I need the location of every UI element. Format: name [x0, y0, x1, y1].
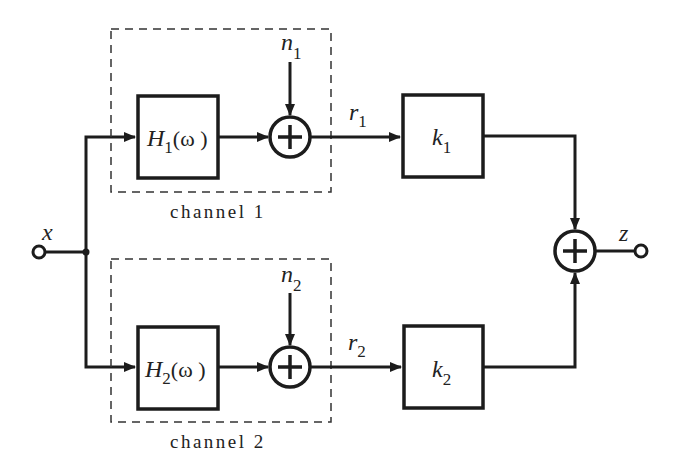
sum-junction-1 [270, 117, 310, 157]
output-sum-junction [555, 231, 595, 271]
signal-r2-label: r2 [348, 329, 366, 361]
sum-junction-2 [270, 347, 310, 387]
k1-to-output-sum-line [483, 136, 575, 229]
noise-n2-label: n2 [281, 261, 302, 295]
block-diagram: x channel 1 H1(ω ) n1 r1 k1 channel 2 H2… [0, 0, 675, 469]
output-label: z [618, 220, 629, 246]
gain-k2-block [404, 326, 483, 408]
k2-to-output-sum-line [483, 273, 575, 367]
signal-r1-label: r1 [349, 99, 367, 131]
gain-k1-block [403, 95, 483, 177]
channel-2-label: channel 2 [170, 431, 266, 452]
input-label: x [41, 219, 53, 245]
noise-n1-label: n1 [281, 29, 302, 63]
channel-1-label: channel 1 [170, 201, 266, 222]
branch-line-1 [86, 137, 135, 252]
